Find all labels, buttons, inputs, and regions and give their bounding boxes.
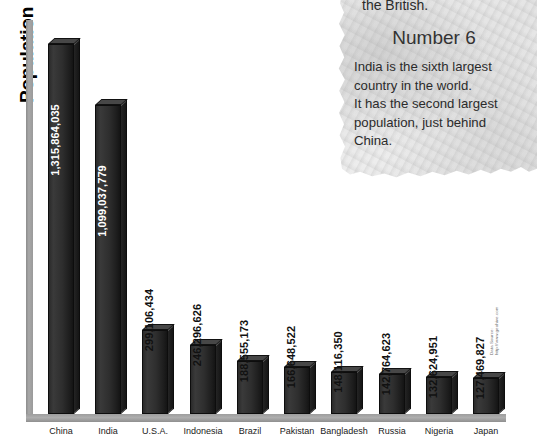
paper-body-line: India is the sixth largest [354, 58, 532, 77]
x-axis-category-labels: ChinaIndiaU.S.A.IndonesiaBrazilPakistanB… [33, 426, 506, 442]
x-axis-category-label: Japan [461, 426, 511, 436]
bar-value-label: 1,315,864,035 [49, 104, 61, 176]
bar-side-face [452, 372, 458, 414]
y-axis-line [26, 20, 33, 420]
bar-value-label: 299,106,434 [143, 289, 155, 351]
data-source-line-2: http://www.geohive.com [494, 293, 499, 355]
x-axis-category-label: Nigeria [414, 426, 464, 436]
bar-value-label: 148,116,350 [332, 331, 344, 393]
bar-value-label: 246,296,626 [191, 304, 203, 366]
x-axis-category-label: U.S.A. [130, 426, 180, 436]
bar-group: 299,106,434 [142, 20, 168, 414]
paper-body-line: China. [354, 132, 532, 151]
bar-side-face [168, 325, 174, 414]
bar-side-face [121, 100, 127, 414]
bar-value-label: 132,624,951 [427, 336, 439, 398]
bar-side-face [74, 39, 80, 414]
x-axis-category-label: Indonesia [178, 426, 228, 436]
bar-value-label: 1,099,037,779 [96, 165, 108, 237]
paper-body: India is the sixth largestcountry in the… [352, 51, 532, 151]
chart-canvas: Population 1,315,864,0351,099,037,779299… [0, 0, 537, 448]
bar[interactable] [95, 105, 121, 414]
bar-side-face [499, 373, 505, 414]
x-axis-category-label: Pakistan [272, 426, 322, 436]
x-axis-category-label: Bangladesh [319, 426, 369, 436]
x-axis-line [26, 414, 506, 422]
bar-group: 188,555,173 [237, 20, 263, 414]
paper-note-text: the British. Number 6 India is the sixth… [352, 0, 532, 151]
bar-group: 246,296,626 [190, 20, 216, 414]
bar-value-label: 166,648,522 [285, 326, 297, 388]
x-axis-category-label: Brazil [225, 426, 275, 436]
paper-heading: Number 6 [352, 15, 532, 51]
x-axis-category-label: Russia [367, 426, 417, 436]
bar-side-face [216, 340, 222, 414]
bar-side-face [263, 356, 269, 414]
bar-value-label: 142,764,623 [380, 333, 392, 395]
bar-group: 1,099,037,779 [95, 20, 121, 414]
bar-side-face [357, 367, 363, 414]
bar-group: 1,315,864,035 [48, 20, 74, 414]
data-source-credit: Data Source: http://www.geohive.com [489, 293, 500, 355]
bar-side-face [405, 369, 411, 414]
bar-value-label: 188,555,173 [238, 320, 250, 382]
paper-body-line: population, just behind [354, 114, 532, 133]
x-axis-category-label: China [36, 426, 86, 436]
paper-top-fragment: the British. [352, 0, 532, 15]
paper-body-line: country in the world. [354, 77, 532, 96]
bar-group: 166,648,522 [284, 20, 310, 414]
paper-body-line: It has the second largest [354, 95, 532, 114]
bar-value-label: 127,469,827 [474, 337, 486, 399]
bar-side-face [310, 362, 316, 414]
x-axis-category-label: India [83, 426, 133, 436]
bar[interactable] [48, 44, 74, 414]
